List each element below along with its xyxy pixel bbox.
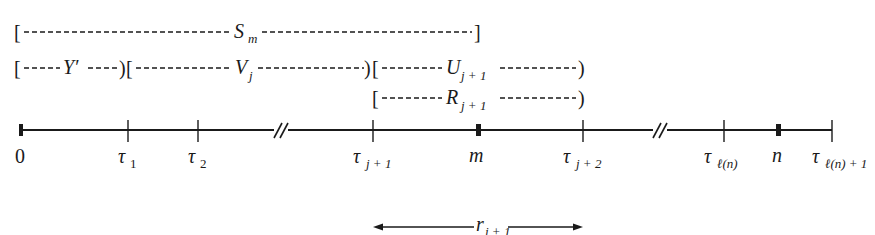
label-s-sub: m <box>248 31 257 46</box>
axis-label-tau-j1: τ <box>353 145 361 167</box>
axis-label-tau-j1-sub: j + 1 <box>364 156 391 171</box>
bracket-open: [ <box>372 87 379 109</box>
axis-label-tau-ln-sub: ℓ(n) <box>717 156 738 171</box>
bracket-open: [ <box>126 57 133 79</box>
label-v-sub: j <box>247 68 253 83</box>
axis-label-tau-ln: τ <box>704 145 712 167</box>
label-y-prime: Y′ <box>63 56 79 78</box>
bracket-close: ) <box>578 87 585 110</box>
axis-label-tau-ln1-sub: ℓ(n) + 1 <box>825 156 867 171</box>
axis-label-tau-1-sub: 1 <box>130 156 137 171</box>
arrowhead-right-icon <box>573 224 583 231</box>
axis-label-m: m <box>469 144 483 166</box>
label-r-span-sub: j + 1 <box>483 224 510 235</box>
interval-v-j: [ V j ) <box>126 56 371 83</box>
endpoint-marker-0 <box>19 124 23 136</box>
axis-label-n: n <box>772 144 782 166</box>
label-v: V <box>235 56 250 78</box>
endpoint-marker-m <box>476 124 481 136</box>
axis-break-icon <box>653 123 667 138</box>
label-r: R <box>445 86 458 108</box>
interval-u-j1: [ U j + 1 ) <box>372 56 585 83</box>
bracket-open: [ <box>372 57 379 79</box>
bracket-open: [ <box>14 21 21 43</box>
axis-label-tau-ln1: τ <box>812 145 820 167</box>
axis-break-icon <box>274 123 288 138</box>
axis-label-tau-2: τ <box>188 145 196 167</box>
axis-label-0: 0 <box>15 145 25 167</box>
interval-r-j1: [ R j + 1 ) <box>372 86 585 113</box>
axis-label-tau-2-sub: 2 <box>200 156 207 171</box>
endpoint-marker-n <box>776 124 781 136</box>
interval-s-m: [ S m ] <box>14 20 481 46</box>
time-axis: 0 τ 1 τ 2 τ j + 1 m τ j + 2 τ ℓ(n) n τ ℓ… <box>15 120 867 171</box>
axis-label-tau-j2: τ <box>563 145 571 167</box>
axis-label-tau-j2-sub: j + 2 <box>574 156 602 171</box>
arrowhead-left-icon <box>373 224 383 231</box>
axis-label-tau-1: τ <box>118 145 126 167</box>
bracket-close: ) <box>578 57 585 80</box>
bracket-close: ] <box>474 21 481 43</box>
bracket-close: ) <box>119 57 126 80</box>
label-r-span: r <box>476 213 484 235</box>
label-s: S <box>234 20 244 42</box>
interval-y-prime: [ Y′ ) <box>14 56 126 80</box>
label-r-sub: j + 1 <box>459 98 486 113</box>
label-u-sub: j + 1 <box>459 68 486 83</box>
bracket-close: ) <box>364 57 371 80</box>
span-arrow-r-j1: r j + 1 <box>373 213 583 235</box>
label-u: U <box>446 56 462 78</box>
bracket-open: [ <box>14 57 21 79</box>
interval-diagram: [ S m ] [ Y′ ) [ V j ) [ U j + 1 ) [ R j… <box>0 0 875 235</box>
